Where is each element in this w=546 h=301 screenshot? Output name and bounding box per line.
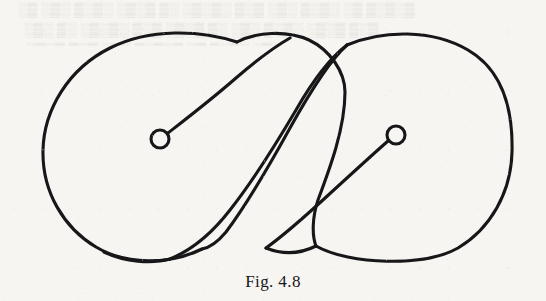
right-spiral-tail-path <box>266 141 388 248</box>
s-band-lower-right-connector-path <box>266 246 316 252</box>
s-band-lower-left-connector-path <box>104 252 170 262</box>
outer-right-lobe-path <box>316 34 512 261</box>
figure-caption: Fig. 4.8 <box>0 272 546 292</box>
figure-drawing <box>0 0 546 301</box>
right-spiral-circle <box>387 126 405 144</box>
scanned-page: ░▒ ░▒░ ▒░▒░ ░▒░▒ ▒░ ░▒░▒░ ▒░▒ ░▒░ ▒░▒░ ░… <box>0 0 546 301</box>
left-spiral-circle <box>151 130 169 148</box>
left-spiral-tail-path <box>168 38 290 133</box>
outer-left-lobe-path <box>43 33 237 261</box>
